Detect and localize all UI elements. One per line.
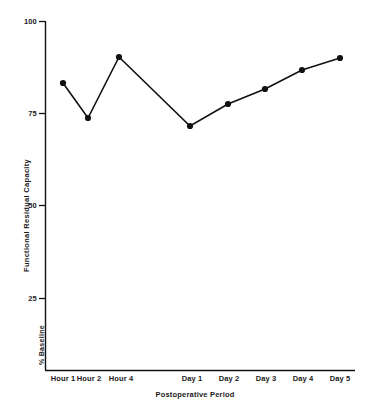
x-tick-label-day-1: Day 1	[182, 374, 203, 383]
data-point-hour-4	[116, 54, 122, 60]
x-tick-label-day-4: Day 4	[293, 374, 314, 383]
data-point-markers	[60, 54, 343, 129]
line-chart-plot	[0, 0, 365, 413]
y-axis-ticks	[39, 22, 45, 299]
data-point-hour-1	[60, 80, 66, 86]
figure-caption	[0, 404, 365, 413]
y-tick-label-100: 100	[10, 17, 37, 26]
data-point-day-1	[187, 123, 193, 129]
y-tick-label-75: 75	[10, 109, 37, 118]
y-tick-label-25: 25	[10, 294, 37, 303]
data-point-hour-2	[85, 115, 91, 121]
data-point-day-2	[225, 101, 231, 107]
x-tick-label-day-3: Day 3	[256, 374, 277, 383]
x-tick-label-hour-1: Hour 1	[51, 374, 75, 383]
x-axis-title: Postoperative Period	[155, 390, 234, 399]
data-line-series-1	[63, 57, 340, 126]
x-tick-label-day-2: Day 2	[219, 374, 240, 383]
data-point-day-4	[299, 67, 305, 73]
x-tick-label-day-5: Day 5	[330, 374, 351, 383]
y-axis-units-label: % Baseline	[38, 325, 45, 365]
x-tick-label-hour-2: Hour 2	[77, 374, 101, 383]
data-point-day-5	[337, 55, 343, 61]
x-tick-label-hour-4: Hour 4	[109, 374, 133, 383]
data-point-day-3	[262, 86, 268, 92]
chart-container: 100 75 50 25 Hour 1 Hour 2 Hour 4 Day 1 …	[0, 0, 365, 413]
y-axis-title: Functional Residual Capacity	[22, 159, 31, 272]
